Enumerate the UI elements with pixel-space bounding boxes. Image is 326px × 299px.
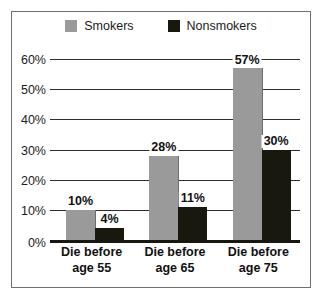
category-line-1: Die before: [133, 245, 216, 261]
bar-label-smokers-age-75: 57%: [233, 54, 262, 67]
bar-smokers-age-65[interactable]: 28%: [149, 156, 179, 240]
ytick-label-60: 60%: [21, 54, 46, 67]
ytick-label-0: 0%: [28, 237, 46, 250]
category-line-2: age 75: [217, 261, 300, 277]
ytick-label-10: 10%: [21, 205, 46, 218]
legend-label-nonsmokers: Nonsmokers: [187, 20, 257, 33]
category-line-1: Die before: [217, 245, 300, 261]
gridline-0: 0%: [50, 240, 300, 243]
chart-frame: Smokers Nonsmokers 60% 50% 40% 30% 20% 1…: [11, 11, 311, 288]
bar-label-smokers-age-65: 28%: [149, 141, 178, 154]
category-line-1: Die before: [50, 245, 133, 261]
bar-group-age-55: 10% 4%: [50, 59, 133, 240]
bar-smokers-age-55[interactable]: 10%: [66, 210, 96, 240]
category-label-age-75: Die before age 75: [217, 245, 300, 276]
bar-nonsmokers-age-55[interactable]: 4%: [95, 228, 124, 240]
category-label-age-55: Die before age 55: [50, 245, 133, 276]
legend-entry-nonsmokers: Nonsmokers: [168, 20, 257, 33]
category-line-2: age 55: [50, 261, 133, 277]
bar-group-age-65: 28% 11%: [133, 59, 216, 240]
category-label-age-65: Die before age 65: [133, 245, 216, 276]
plot-area: 60% 50% 40% 30% 20% 10% 0% 10% 4%: [50, 59, 300, 240]
category-axis: Die before age 55 Die before age 65 Die …: [50, 245, 300, 276]
bar-label-smokers-age-55: 10%: [66, 195, 95, 208]
black-square-swatch: [168, 20, 180, 32]
gray-square-swatch: [65, 20, 77, 32]
chart-legend: Smokers Nonsmokers: [12, 20, 310, 33]
legend-label-smokers: Smokers: [84, 20, 133, 33]
bar-label-nonsmokers-age-55: 4%: [98, 213, 120, 226]
ytick-label-50: 50%: [21, 84, 46, 97]
bar-nonsmokers-age-65[interactable]: 11%: [178, 207, 207, 240]
category-line-2: age 65: [133, 261, 216, 277]
ytick-label-30: 30%: [21, 144, 46, 157]
bar-nonsmokers-age-75[interactable]: 30%: [262, 150, 291, 241]
bar-smokers-age-75[interactable]: 57%: [233, 68, 263, 240]
legend-entry-smokers: Smokers: [65, 20, 133, 33]
ytick-label-40: 40%: [21, 114, 46, 127]
bar-groups: 10% 4% 28% 11% 57% 30%: [50, 59, 300, 240]
bar-group-age-75: 57% 30%: [217, 59, 300, 240]
ytick-label-20: 20%: [21, 174, 46, 187]
bar-label-nonsmokers-age-65: 11%: [179, 192, 207, 205]
bar-label-nonsmokers-age-75: 30%: [262, 135, 291, 148]
